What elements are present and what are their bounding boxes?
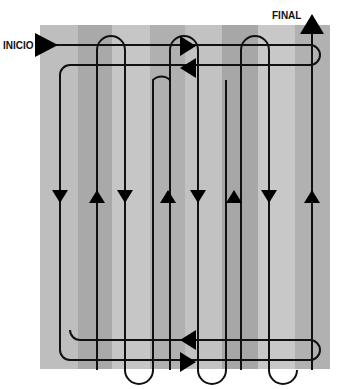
traversal-diagram	[0, 0, 345, 389]
end-arrow-icon	[300, 14, 324, 34]
field-background	[40, 25, 330, 369]
